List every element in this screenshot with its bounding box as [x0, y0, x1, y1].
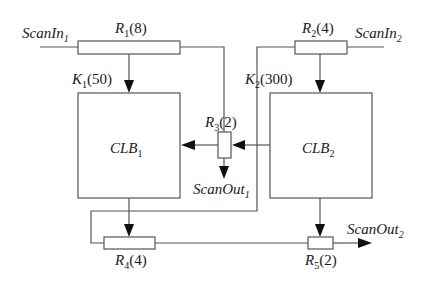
label-r4: R4(4): [114, 252, 147, 271]
arrow-clb1-to-r4-icon: [124, 224, 134, 237]
label-r3: R3(2): [204, 114, 237, 133]
arrow-k2-icon: [315, 80, 325, 93]
label-k1: K1(50): [71, 71, 112, 90]
label-r2: R2(4): [301, 20, 334, 39]
label-scanout2: ScanOut2: [347, 221, 404, 240]
label-scanin1: ScanIn1: [22, 25, 69, 44]
label-k2: K2(300): [244, 71, 293, 90]
resistor-r3: [218, 132, 231, 158]
arrow-scanout1-icon: [219, 166, 229, 179]
scan-chain-diagram: ScanIn1 ScanIn2 R1(8) R2(4) R3(2) R4(4) …: [0, 0, 431, 285]
arrow-scanout2-icon: [358, 238, 372, 248]
resistor-r1: [78, 41, 180, 54]
label-r1: R1(8): [114, 20, 147, 39]
label-scanout1: ScanOut1: [193, 181, 250, 200]
arrow-clb2-to-r5-icon: [315, 224, 325, 237]
resistor-r4: [104, 237, 155, 249]
label-scanin2: ScanIn2: [355, 25, 402, 44]
resistor-r5: [308, 237, 333, 249]
arrow-clb2-to-r3-icon: [232, 140, 245, 150]
arrow-r3-to-clb1-icon: [181, 140, 195, 150]
arrow-k1-icon: [124, 80, 134, 93]
resistor-r2: [295, 41, 347, 54]
wire-r1-r3: [180, 47, 224, 132]
label-r5: R5(2): [304, 252, 337, 271]
